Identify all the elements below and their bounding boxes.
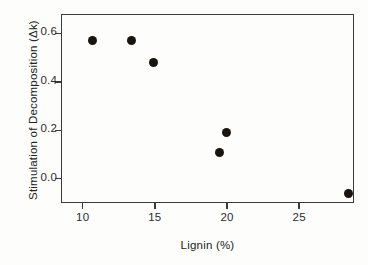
y-axis-tick-label: 0.4 xyxy=(0,74,57,86)
x-axis-tick xyxy=(226,203,227,209)
plot-data-area xyxy=(61,14,354,203)
x-axis-tick-label: 20 xyxy=(207,211,247,223)
x-axis-tick-label: 10 xyxy=(63,211,103,223)
y-axis-tick-label: 0.6 xyxy=(0,25,57,37)
y-axis-tick-label: 0.0 xyxy=(0,171,57,183)
data-point xyxy=(88,36,97,45)
x-axis-tick xyxy=(82,203,83,209)
x-axis-label: Lignin (%) xyxy=(61,239,354,251)
data-point xyxy=(215,148,224,157)
scatter-chart-figure: Stimulation of Decomposition (Δk) Lignin… xyxy=(0,0,368,265)
x-axis-tick xyxy=(154,203,155,209)
data-point xyxy=(149,58,158,67)
y-axis-tick-label: 0.2 xyxy=(0,122,57,134)
x-axis-tick-label: 15 xyxy=(135,211,175,223)
data-point xyxy=(127,36,136,45)
data-point xyxy=(344,189,353,198)
data-point xyxy=(222,128,231,137)
x-axis-tick xyxy=(298,203,299,209)
x-axis-tick-label: 25 xyxy=(279,211,319,223)
